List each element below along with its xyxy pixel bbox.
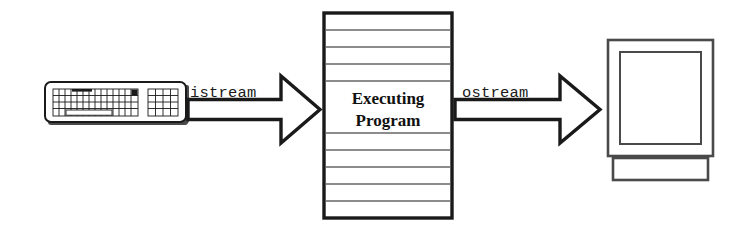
monitor-base <box>613 158 708 180</box>
keyboard-numpad <box>148 89 178 116</box>
executing-program-box: Executing Program <box>324 13 452 218</box>
process-box-label-line1: Executing <box>352 89 425 108</box>
keyboard-function-strip <box>72 89 92 92</box>
stream-flow-diagram: istream Executing Program ost <box>0 0 742 236</box>
istream-label: istream <box>190 84 257 102</box>
keyboard-spacebar <box>66 110 112 115</box>
keyboard-icon <box>45 82 189 125</box>
keyboard-enter-key <box>132 90 138 96</box>
monitor-icon <box>608 40 713 180</box>
monitor-screen <box>620 52 701 144</box>
process-box-label-line2: Program <box>356 111 421 130</box>
ostream-label: ostream <box>462 84 529 102</box>
diagram-root: istream Executing Program ost <box>0 0 742 236</box>
